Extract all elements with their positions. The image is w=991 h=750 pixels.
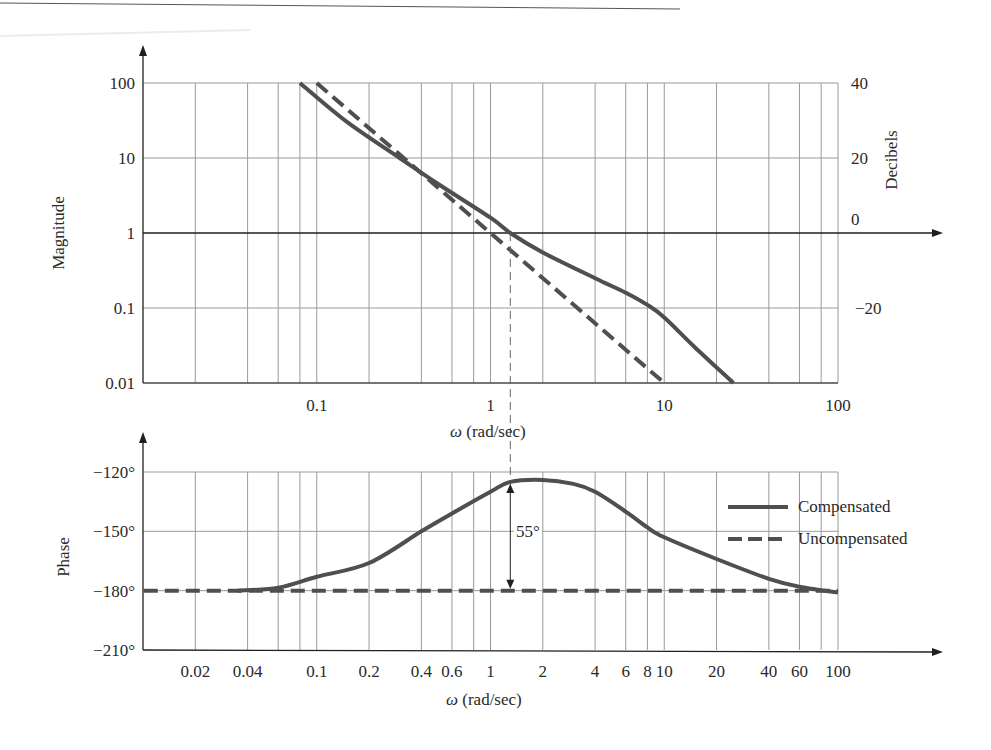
x-tick-label: 60 — [791, 662, 808, 681]
y-tick-label: −120° — [93, 463, 135, 482]
y2-tick-label: −20 — [855, 299, 882, 318]
x-tick-label: 100 — [825, 396, 851, 415]
x-tick-label: 0.1 — [306, 396, 327, 415]
solid-line-swatch-icon — [728, 504, 790, 510]
x-tick-label: 10 — [656, 662, 673, 681]
x-axis-arrow-icon — [932, 229, 943, 237]
x-tick-label: 8 — [643, 662, 652, 681]
y-tick-label: 0.01 — [105, 374, 135, 393]
y-tick-label: −180° — [93, 582, 135, 601]
y-tick-label: 100 — [110, 74, 136, 93]
x-tick-label: 0.02 — [180, 662, 210, 681]
unit-text: (rad/sec) — [462, 422, 526, 441]
phase-plot: −120°−150°−180°−210°0.020.040.10.20.40.6… — [93, 233, 943, 681]
magnitude-plot: 1001010.10.0140200−200.1110100 — [105, 45, 943, 415]
omega-symbol: ω — [450, 422, 462, 441]
phase-x-axis-arrow-icon — [932, 648, 943, 656]
x-tick-label: 40 — [760, 662, 777, 681]
y-axis-arrow-icon — [139, 45, 147, 56]
x-tick-label: 10 — [656, 396, 673, 415]
y2-tick-label: 20 — [851, 149, 868, 168]
arrow-down-icon — [506, 580, 514, 589]
bode-plot-canvas: 1001010.10.0140200−200.1110100 −120°−150… — [0, 0, 991, 750]
x-tick-label: 0.6 — [441, 662, 462, 681]
dashed-line-swatch-icon — [728, 536, 790, 542]
page-shadow-line — [0, 30, 250, 36]
x-tick-label: 4 — [591, 662, 600, 681]
y-tick-label: 10 — [118, 149, 135, 168]
legend-label: Compensated — [798, 497, 891, 517]
x-tick-label: 1 — [486, 396, 495, 415]
x-tick-label: 2 — [539, 662, 548, 681]
arrow-up-icon — [506, 484, 514, 493]
phase-y-axis-arrow-icon — [139, 432, 147, 443]
y-tick-label: 0.1 — [114, 299, 135, 318]
legend-label: Uncompensated — [798, 529, 908, 549]
y2-tick-label: 0 — [851, 210, 860, 229]
unit-text: (rad/sec) — [458, 690, 522, 709]
x-tick-label: 6 — [621, 662, 630, 681]
phase-x-axis-label: ω (rad/sec) — [446, 690, 522, 710]
x-tick-label: 0.4 — [411, 662, 433, 681]
x-tick-label: 100 — [825, 662, 851, 681]
magnitude-x-axis-label: ω (rad/sec) — [450, 422, 526, 442]
omega-symbol: ω — [446, 690, 458, 709]
page-edge-line — [0, 3, 680, 9]
y-tick-label: 1 — [127, 224, 136, 243]
decibels-axis-label: Decibels — [882, 130, 902, 189]
y-tick-label: −150° — [93, 522, 135, 541]
y2-tick-label: 40 — [851, 74, 868, 93]
phase-x-axis — [143, 650, 935, 652]
bode-plot-figure: 1001010.10.0140200−200.1110100 −120°−150… — [0, 0, 991, 750]
x-tick-label: 0.1 — [306, 662, 327, 681]
x-tick-label: 0.04 — [233, 662, 263, 681]
legend-item-compensated: Compensated — [728, 497, 891, 517]
x-tick-label: 0.2 — [358, 662, 379, 681]
x-tick-label: 20 — [708, 662, 725, 681]
phase-axis-label: Phase — [54, 537, 74, 577]
legend-item-uncompensated: Uncompensated — [728, 529, 908, 549]
magnitude-axis-label: Magnitude — [49, 196, 69, 270]
y-tick-label: −210° — [93, 641, 135, 660]
x-tick-label: 1 — [486, 662, 495, 681]
phase-margin-annotation: 55° — [514, 522, 542, 542]
